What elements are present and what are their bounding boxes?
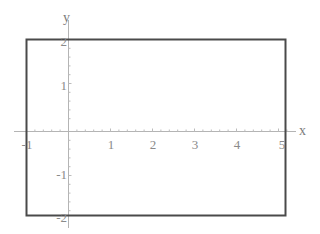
coordinate-plot-figure: y x -1 1 2 3 4 5 2 1 -1 -2 [0,0,320,234]
y-tick-label-1: 1 [61,79,68,92]
x-tick-label-2: 2 [150,138,157,151]
x-tick-label-1: 1 [108,138,115,151]
region-rectangle [27,40,286,216]
y-tick-label-neg1: -1 [56,168,67,181]
x-tick-label-neg1: -1 [22,138,33,151]
y-tick-label-2: 2 [61,35,68,48]
y-tick-label-neg2: -2 [56,211,67,224]
x-axis-label: x [299,124,306,138]
x-tick-label-5: 5 [279,138,286,151]
y-axis-label: y [63,11,70,25]
x-tick-label-4: 4 [234,138,241,151]
axis-group [14,20,296,228]
x-tick-label-3: 3 [192,138,199,151]
plot-canvas [0,0,320,234]
